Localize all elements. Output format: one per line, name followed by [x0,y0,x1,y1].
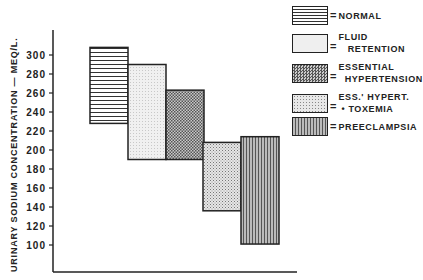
y-tick-label: 200 [26,145,46,156]
legend-item-essential-hypertension: = ESSENTIAL HYPERTENSION [292,64,423,85]
bar-essential-hypertension [166,90,204,159]
swatch-light-stipple [292,34,328,53]
swatch-vertical-lines [292,117,328,136]
y-axis-title: URINARY SODIUM CONCENTRATION — MEQ/L. [9,38,19,272]
legend-label: ESSENTIAL HYPERTENSION [338,61,422,85]
legend-item-normal: = NORMAL [292,6,382,25]
legend-item-preeclampsia: = PREECLAMPSIA [292,117,417,136]
y-tick-label: 160 [26,183,46,194]
swatch-dots [292,94,328,113]
legend-label: NORMAL [338,10,381,22]
y-axis-ticks: 100120140160180200220240260280300 [26,50,53,251]
legend-label: PREECLAMPSIA [338,121,417,133]
y-tick-label: 260 [26,88,46,99]
y-tick-label: 300 [26,50,46,61]
y-tick-label: 240 [26,107,46,118]
y-tick-label: 180 [26,164,46,175]
y-tick-label: 120 [26,221,46,232]
legend-item-fluid-retention: = FLUID RETENTION [292,34,405,55]
bar-ess-hypert-toxemia [203,142,241,210]
bars [90,47,279,244]
swatch-horizontal-lines [292,6,328,25]
bar-preeclampsia [241,137,279,244]
legend-label: ESS.' HYPERT. • TOXEMIA [338,91,409,115]
bar-fluid-retention [128,65,166,160]
y-tick-label: 220 [26,126,46,137]
swatch-crosshatch [292,64,328,83]
y-tick-label: 140 [26,202,46,213]
y-tick-label: 100 [26,240,46,251]
legend-item-ess-hypert-toxemia: = ESS.' HYPERT. • TOXEMIA [292,94,409,115]
y-tick-label: 280 [26,69,46,80]
bar-normal [90,47,128,123]
legend-label: FLUID RETENTION [338,31,405,55]
